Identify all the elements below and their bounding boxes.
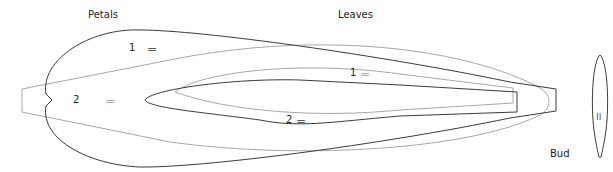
bud-label: Bud <box>550 148 570 159</box>
petals-label: Petals <box>88 9 118 20</box>
petal-1-outline <box>46 30 556 167</box>
leaf-2-equals: = <box>296 116 306 126</box>
leaves-label: Leaves <box>338 9 373 20</box>
leaf-1-equals: = <box>360 69 370 79</box>
bud-mark: II <box>596 112 601 122</box>
petal-1-number: 1 <box>129 42 135 53</box>
leaf-2-number: 2 <box>286 114 292 125</box>
petal-2-outline <box>22 45 549 151</box>
petal-2-number: 2 <box>73 94 79 105</box>
leaf-1-outline <box>175 68 513 113</box>
flower-parts-diagram <box>0 0 613 172</box>
petal-1-equals: = <box>147 44 157 54</box>
petal-2-equals: = <box>105 96 115 106</box>
leaf-2-outline <box>145 80 517 124</box>
bud-outline <box>592 55 607 157</box>
leaf-1-number: 1 <box>350 67 356 78</box>
